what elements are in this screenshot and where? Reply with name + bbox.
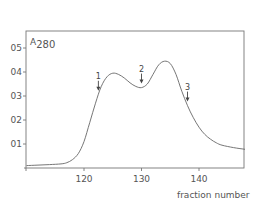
fraction-marker-2: 2 [139,65,144,84]
y-axis-label: A280 [30,37,55,50]
y-tick-label: 04 [11,67,23,77]
arrow-head-icon [140,80,144,84]
x-axis-label: fraction number [177,190,250,200]
x-tick-label: 140 [190,174,207,184]
x-tick-label: 120 [75,174,92,184]
x-axis: 120130140 [75,168,207,184]
plot-frame [26,31,244,168]
y-tick-label: 01 [11,139,22,149]
absorbance-curve [27,61,246,165]
arrow-head-icon [186,98,190,102]
y-tick-label: 02 [11,115,22,125]
fraction-markers: 123 [96,65,190,102]
marker-label: 2 [139,65,144,74]
x-tick-label: 130 [133,174,150,184]
marker-label: 1 [96,72,101,81]
fraction-marker-3: 3 [185,83,190,102]
y-tick-label: 03 [11,91,22,101]
y-tick-label: 05 [11,43,22,53]
y-axis: 0102030405 [11,43,26,171]
absorbance-chart: 0102030405 120130140 123 A280 fraction n… [0,0,253,213]
marker-label: 3 [185,83,190,92]
